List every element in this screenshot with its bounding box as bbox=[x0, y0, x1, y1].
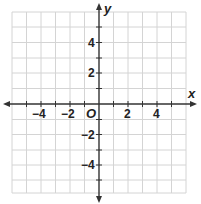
x-axis-left-arrow-icon bbox=[3, 101, 10, 107]
y-axis-up-arrow-icon bbox=[96, 3, 102, 10]
y-tick-label: 4 bbox=[88, 36, 95, 50]
x-axis-right-arrow-icon bbox=[190, 101, 197, 107]
x-tick-label: 2 bbox=[124, 107, 131, 121]
y-tick-label: 2 bbox=[88, 66, 95, 80]
x-tick-label: −4 bbox=[32, 107, 46, 121]
y-axis-down-arrow-icon bbox=[96, 196, 102, 203]
y-tick-label: −4 bbox=[81, 158, 95, 172]
y-axis-name: y bbox=[103, 1, 112, 16]
x-tick-label: 4 bbox=[153, 107, 160, 121]
y-axis bbox=[96, 3, 102, 203]
coordinate-plane: x y O −4 −2 2 4 4 2 −2 −4 bbox=[0, 0, 201, 204]
y-tick-label: −2 bbox=[81, 128, 95, 142]
x-tick-label: −2 bbox=[61, 107, 75, 121]
x-axis-name: x bbox=[187, 86, 196, 101]
origin-label: O bbox=[86, 106, 96, 121]
